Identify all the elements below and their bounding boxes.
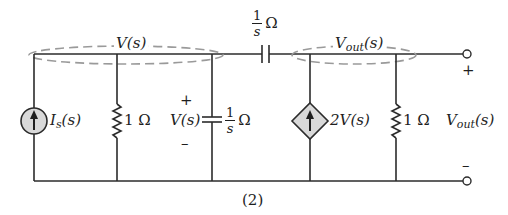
resistor-right — [392, 54, 400, 181]
figure-caption: (2) — [242, 193, 263, 208]
series-capacitor-label: 1sΩ — [252, 9, 278, 38]
output-voltage-label-tail: (s) — [475, 111, 494, 129]
series-capacitor — [262, 45, 269, 63]
resistor-left-label: 1 Ω — [124, 113, 151, 128]
fraction-numerator: 1 — [252, 9, 262, 24]
shunt-capacitor-unit: Ω — [238, 111, 250, 129]
fraction-denominator: s — [254, 24, 261, 38]
output-voltage-label-sub: out — [457, 118, 475, 131]
dependent-source — [292, 54, 328, 181]
series-capacitor-unit: Ω — [265, 14, 277, 32]
current-source-label-tail: (s) — [62, 111, 81, 129]
output-voltage-label-main: V — [446, 111, 457, 129]
output-terminal-plus[interactable] — [463, 50, 471, 58]
shunt-capacitor-label: 1sΩ — [225, 106, 251, 135]
resistor-right-label: 1 Ω — [403, 113, 430, 128]
shunt-capacitor-voltage-label: V(s) — [170, 113, 200, 128]
shunt-capacitor-plus: + — [180, 93, 193, 108]
dependent-source-label: 2V(s) — [330, 113, 370, 128]
output-terminal-minus[interactable] — [463, 177, 471, 185]
right-node-label-tail: (s) — [364, 34, 383, 52]
resistor-left — [113, 54, 121, 181]
output-voltage-label: Vout(s) — [446, 113, 494, 128]
output-plus-sign: + — [462, 63, 475, 78]
fraction-numerator: 1 — [225, 106, 235, 121]
current-source — [21, 54, 47, 181]
output-minus-sign: – — [462, 158, 470, 173]
current-source-label: Is(s) — [50, 113, 81, 128]
shunt-capacitor — [202, 54, 222, 181]
left-node-label: V(s) — [114, 36, 148, 51]
right-node-label: Vout(s) — [333, 36, 385, 51]
right-node-label-sub: out — [346, 41, 364, 54]
shunt-capacitor-minus: – — [181, 136, 189, 151]
right-node-label-main: V — [335, 34, 346, 52]
series-capacitor-fraction: 1s — [252, 9, 262, 38]
shunt-capacitor-fraction: 1s — [225, 106, 235, 135]
current-source-label-sub: s — [56, 118, 62, 131]
fraction-denominator: s — [227, 121, 234, 135]
